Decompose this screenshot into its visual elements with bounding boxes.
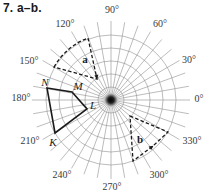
angle-label-90: 90° <box>105 4 119 15</box>
region-b: b <box>130 116 168 161</box>
angle-label-330: 330° <box>183 135 202 146</box>
angle-label-60: 60° <box>153 18 167 29</box>
region-b-label: b <box>137 133 143 145</box>
angle-label-150: 150° <box>20 55 39 66</box>
vertex-label-n: N <box>40 76 49 88</box>
angle-label-180: 180° <box>12 92 31 103</box>
angle-label-120: 120° <box>56 18 75 29</box>
angle-label-30: 30° <box>182 54 196 65</box>
angle-label-240: 240° <box>53 169 72 180</box>
polar-diagram: 0° 30° 60° 90° 120° 150° 180° 210° 240° … <box>0 0 210 195</box>
angle-label-270: 270° <box>103 181 122 192</box>
vertex-label-k: K <box>48 136 57 148</box>
angle-label-0: 0° <box>195 93 204 104</box>
vertex-label-m: M <box>72 80 83 92</box>
origin-pole <box>104 93 118 107</box>
vertex-label-l: L <box>89 99 96 111</box>
angle-label-300: 300° <box>150 169 169 180</box>
polar-grid-figure: 7. a–b. 0° 30° 60° 90° 120° 150° 180° 21… <box>0 0 210 195</box>
angle-label-210: 210° <box>21 135 40 146</box>
region-a-label: a <box>82 53 88 65</box>
region-b-boundary <box>130 116 168 161</box>
